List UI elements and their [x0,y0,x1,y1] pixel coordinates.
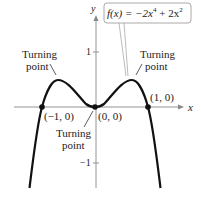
function-graph: x y 1 −1 f(x) = −2x4 + 2x2 Turning point… [0,0,201,200]
turning-point-right-leader [136,64,142,75]
point-label-1-0: (1, 0) [150,91,174,104]
point-label-neg1-0: (−1, 0) [44,110,74,123]
turning-point-right-line2: point [145,60,168,72]
x-axis-label: x [187,101,193,113]
turning-point-left-label: Turning point [22,48,60,72]
turning-point-origin-leader [84,111,93,127]
function-label-exp2: 2 [179,6,183,14]
function-label-fx: f(x) = −2x [107,7,153,20]
function-label: f(x) = −2x4 + 2x2 [107,6,183,20]
turning-point-left-line2: point [26,60,49,72]
point-label-0-0: (0, 0) [98,110,122,123]
turning-point-origin-line1: Turning [56,127,92,139]
turning-point-origin-line2: point [62,139,85,151]
point-neg1-0 [39,104,45,110]
turning-point-origin-label: Turning point [56,127,94,151]
x-axis-arrow-icon [178,105,184,110]
function-curve [30,80,161,188]
y-tick-label-neg1: −1 [80,157,91,168]
point-1-0 [145,104,151,110]
y-axis-arrow-icon [94,15,99,21]
turning-point-left-leader [50,64,56,75]
turning-point-right-line1: Turning [140,48,176,60]
turning-point-left-line1: Turning [22,48,58,60]
point-0-0 [92,104,98,110]
function-label-mid: + 2x [157,7,180,19]
y-tick-label-1: 1 [86,46,91,57]
y-axis-label: y [90,3,96,14]
turning-point-right-label: Turning point [140,48,178,72]
